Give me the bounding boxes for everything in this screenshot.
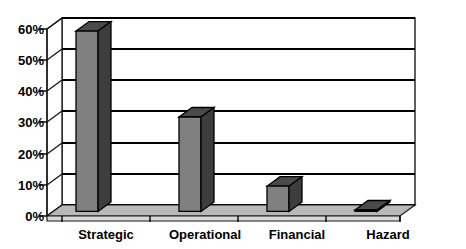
x-tick-label-strategic: Strategic [78,228,134,241]
x-axis-labels: Strategic Operational Financial Hazard [0,0,466,249]
x-tick-label-operational: Operational [169,228,241,241]
x-tick-label-financial: Financial [269,228,325,241]
bar-chart: 60% 50% 40% 30% 20% 10% 0% Strategic Ope… [0,0,466,249]
x-tick-label-hazard: Hazard [366,228,409,241]
